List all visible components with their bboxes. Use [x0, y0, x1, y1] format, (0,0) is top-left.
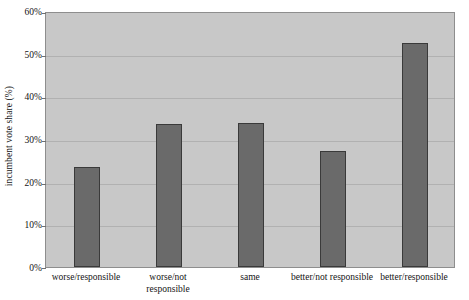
x-tick-label: better/responsible — [380, 272, 448, 284]
x-tick-label-line: worse/responsible — [52, 272, 121, 282]
x-tick-label-line: worse/not — [149, 272, 186, 282]
bar — [74, 167, 100, 267]
y-tick-label: 20% — [25, 178, 42, 188]
y-tick-mark — [42, 268, 46, 269]
y-tick-label: 40% — [25, 92, 42, 102]
y-axis-title-text: incumbent vote share (%) — [4, 86, 14, 186]
bar — [156, 124, 182, 267]
bar — [402, 43, 428, 267]
x-tick-label: same — [240, 272, 260, 284]
bar — [320, 151, 346, 267]
x-tick-label: better/not responsible — [291, 272, 373, 284]
x-tick-label-line: responsible — [146, 284, 189, 296]
x-tick-label-line: better/not responsible — [291, 272, 373, 282]
plot-area — [45, 12, 455, 268]
bar — [238, 123, 264, 267]
x-tick-label: worse/notresponsible — [146, 272, 189, 295]
x-tick-label: worse/responsible — [52, 272, 121, 284]
y-tick-label: 30% — [25, 135, 42, 145]
y-tick-label: 50% — [25, 50, 42, 60]
bars — [46, 13, 454, 267]
y-tick-label: 10% — [25, 220, 42, 230]
x-tick-label-line: better/responsible — [380, 272, 448, 282]
y-tick-label: 60% — [25, 7, 42, 17]
y-tick-label: 0% — [29, 263, 42, 273]
x-axis-tick-labels: worse/responsibleworse/notresponsiblesam… — [45, 272, 455, 300]
x-tick-label-line: same — [240, 272, 260, 282]
y-axis-tick-labels: 0%10%20%30%40%50%60% — [16, 0, 44, 300]
bar-chart: incumbent vote share (%) 0%10%20%30%40%5… — [0, 0, 469, 300]
